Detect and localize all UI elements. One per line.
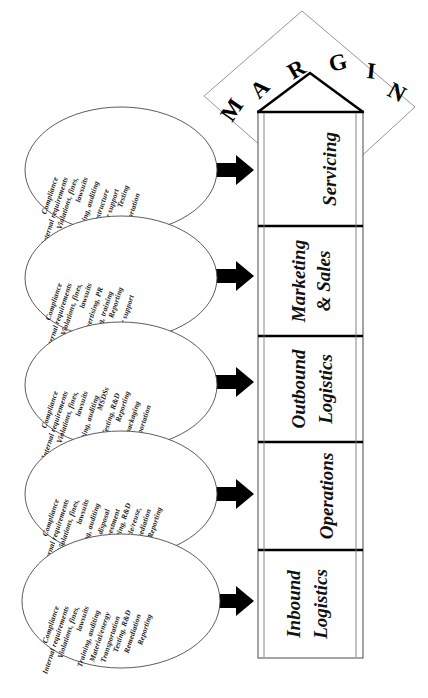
chain-label-outbound: Outbound (288, 349, 309, 429)
value-chain-diagram: M A R G I N Servicin (0, 0, 428, 698)
margin-letter-n: N (384, 77, 411, 107)
chain-label-sales: & Sales (313, 251, 334, 312)
issues-ellipse-inbound-logistics[interactable]: Compliance Internal requirements Violati… (22, 534, 220, 676)
chain-label-servicing: Servicing (319, 132, 340, 206)
margin-letter-g: G (326, 48, 350, 77)
chain-label-marketing: Marketing (288, 240, 309, 323)
margin-letter-i: I (365, 58, 377, 84)
chain-segment-operations[interactable]: Operations (316, 453, 337, 540)
chain-segment-servicing[interactable]: Servicing (319, 132, 340, 206)
margin-letter-a: A (245, 74, 275, 104)
chain-label-operations: Operations (316, 453, 337, 540)
margin-letter-r: R (283, 54, 310, 84)
chain-label-inbound-logistics: Logistics (310, 569, 331, 640)
value-chain-bar: Servicing Marketing & Sales Outbound Log… (257, 73, 364, 658)
chain-label-inbound: Inbound (283, 570, 304, 639)
margin-letter-m: M (215, 94, 248, 126)
chain-label-outbound-logistics: Logistics (315, 354, 336, 425)
